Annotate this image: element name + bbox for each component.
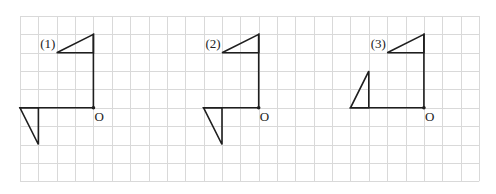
figure-3: O(3)	[351, 34, 435, 123]
grid-diagram: O(1)O(2)O(3)	[0, 0, 496, 194]
diagram-canvas: O(1)O(2)O(3)	[0, 0, 496, 194]
top-triangle	[387, 34, 424, 52]
origin-label: O	[94, 109, 103, 124]
figure-number-label: (2)	[205, 36, 220, 51]
figure-number-label: (3)	[371, 36, 386, 51]
origin-label: O	[260, 109, 269, 124]
origin-label: O	[425, 109, 434, 124]
figure-number-label: (1)	[40, 36, 55, 51]
